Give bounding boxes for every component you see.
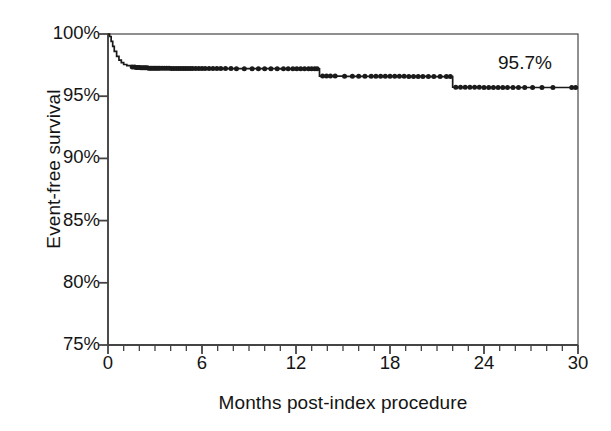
- censor-mark: [539, 85, 544, 90]
- censor-mark: [420, 74, 425, 79]
- censor-mark: [573, 85, 578, 90]
- censor-mark: [406, 74, 411, 79]
- censor-mark: [438, 74, 443, 79]
- censor-mark: [350, 74, 355, 79]
- censor-mark: [402, 74, 407, 79]
- censor-mark: [315, 66, 320, 71]
- censor-mark: [388, 74, 393, 79]
- censor-mark: [342, 74, 347, 79]
- censor-mark: [416, 74, 421, 79]
- censor-mark: [411, 74, 416, 79]
- censor-mark: [458, 85, 463, 90]
- censor-mark: [550, 85, 555, 90]
- censor-mark: [482, 85, 487, 90]
- censor-mark: [328, 74, 333, 79]
- censor-mark: [286, 66, 291, 71]
- censor-mark: [522, 85, 527, 90]
- censor-mark: [496, 85, 501, 90]
- censor-mark: [431, 74, 436, 79]
- censor-mark: [356, 74, 361, 79]
- censor-mark: [477, 85, 482, 90]
- censor-mark: [463, 85, 468, 90]
- km-step-curve: [108, 34, 578, 87]
- censor-mark: [392, 74, 397, 79]
- censor-mark: [472, 85, 477, 90]
- censor-mark: [218, 66, 223, 71]
- censor-mark: [234, 66, 239, 71]
- censor-mark: [333, 74, 338, 79]
- censor-mark: [362, 74, 367, 79]
- censor-mark: [369, 74, 374, 79]
- censor-mark: [228, 66, 233, 71]
- censor-mark: [426, 74, 431, 79]
- censor-mark: [250, 66, 255, 71]
- censor-mark: [505, 85, 510, 90]
- censor-mark: [242, 66, 247, 71]
- censor-mark: [268, 66, 273, 71]
- censor-mark: [275, 66, 280, 71]
- axis-frame: [108, 34, 578, 345]
- censor-mark: [516, 85, 521, 90]
- x-axis-ticks: [108, 345, 578, 354]
- censor-mark: [448, 74, 453, 79]
- censor-mark: [530, 85, 535, 90]
- censor-mark: [373, 74, 378, 79]
- y-axis-ticks: [99, 34, 108, 345]
- censor-mark: [491, 85, 496, 90]
- censor-mark: [500, 85, 505, 90]
- censor-mark: [383, 74, 388, 79]
- plot-frame: [108, 34, 578, 345]
- censor-mark: [453, 85, 458, 90]
- censor-mark: [397, 74, 402, 79]
- censor-mark: [262, 66, 267, 71]
- plot-area: [0, 0, 611, 431]
- censor-mark: [486, 85, 491, 90]
- censor-mark: [223, 66, 228, 71]
- censor-mark: [281, 66, 286, 71]
- censoring-marks: [130, 64, 578, 90]
- km-curve-path: [108, 34, 578, 87]
- censor-mark: [510, 85, 515, 90]
- censor-mark: [378, 74, 383, 79]
- censor-mark: [256, 66, 261, 71]
- censor-mark: [467, 85, 472, 90]
- survival-chart-figure: Event-free survival 75%80%85%90%95%100% …: [0, 0, 611, 431]
